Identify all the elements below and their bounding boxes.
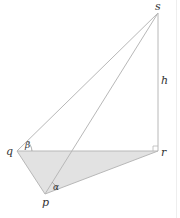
point-label-q: q	[6, 145, 13, 158]
angle-label-alpha: α	[53, 182, 59, 192]
point-label-r: r	[161, 146, 167, 159]
point-label-p: p	[42, 196, 49, 209]
height-label: h	[161, 74, 168, 87]
diagram-canvas: s h q r p β α	[0, 0, 180, 218]
right-angle-marker	[153, 146, 158, 151]
point-label-s: s	[155, 0, 161, 13]
edge-qs	[17, 13, 158, 151]
geometry-diagram: s h q r p β α	[0, 0, 180, 218]
page-edge-divider	[176, 0, 177, 218]
base-triangle-pqr	[17, 151, 158, 194]
angle-label-beta: β	[24, 140, 30, 150]
